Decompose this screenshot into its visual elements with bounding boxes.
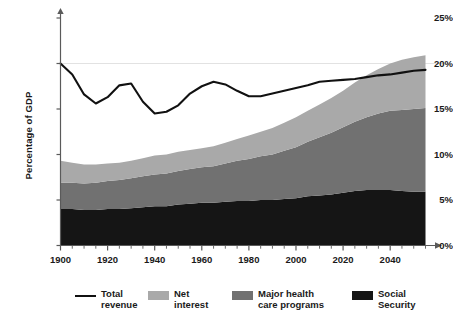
y-axis-arrow	[57, 8, 63, 14]
legend-color-swatch-icon	[148, 291, 169, 300]
x-tick-label-1940: 1940	[130, 255, 180, 265]
legend-label: Social Security	[378, 289, 416, 310]
legend-item-total-revenue[interactable]: Total revenue	[75, 289, 137, 310]
chart-container: Percentage of GDP 0%5%10%15%20%25% 19001…	[0, 0, 453, 324]
legend-label: Major health care programs	[258, 289, 324, 310]
legend-color-swatch-icon	[232, 291, 253, 300]
x-tick-label-1920: 1920	[83, 255, 133, 265]
chart-legend: Total revenueNet interestMajor health ca…	[0, 283, 453, 317]
y-tick-label-10pct: 10%	[401, 150, 453, 160]
legend-color-swatch-icon	[352, 291, 373, 300]
y-tick-label-5pct: 5%	[401, 195, 453, 205]
y-tick-label-0pct: 0%	[401, 241, 453, 251]
x-tick-label-2020: 2020	[318, 255, 368, 265]
x-tick-label-2040: 2040	[365, 255, 415, 265]
x-tick-label-2000: 2000	[271, 255, 321, 265]
y-tick-label-25pct: 25%	[401, 13, 453, 23]
x-tick-label-1900: 1900	[36, 255, 86, 265]
legend-label: Total revenue	[101, 289, 137, 310]
chart-plot-svg	[0, 0, 453, 324]
legend-line-swatch-icon	[75, 291, 96, 300]
x-tick-label-1980: 1980	[224, 255, 274, 265]
legend-item-social-security[interactable]: Social Security	[352, 289, 416, 310]
y-tick-label-20pct: 20%	[401, 59, 453, 69]
y-tick-label-15pct: 15%	[401, 104, 453, 114]
legend-label: Net interest	[174, 289, 208, 310]
legend-item-net-interest[interactable]: Net interest	[148, 289, 208, 310]
x-tick-label-1960: 1960	[177, 255, 227, 265]
legend-item-major-health-care-programs[interactable]: Major health care programs	[232, 289, 324, 310]
